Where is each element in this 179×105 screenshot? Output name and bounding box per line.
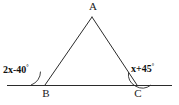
angle-label-right-exterior: x+45° xyxy=(131,63,154,74)
vertex-label-c: C xyxy=(125,88,151,99)
angle-expression-left: 2x-40 xyxy=(3,64,26,75)
angle-expression-right: x+45 xyxy=(131,63,152,74)
angle-arc-b xyxy=(31,72,41,85)
angle-label-left-exterior: 2x-40° xyxy=(3,64,29,75)
degree-symbol-left: ° xyxy=(26,64,28,70)
triangle-side-ac xyxy=(92,17,137,85)
geometry-figure: A B C 2x-40° x+45° xyxy=(0,0,179,105)
vertex-label-a: A xyxy=(80,1,106,12)
triangle-diagram-svg xyxy=(0,0,179,105)
triangle-side-ba xyxy=(45,17,92,85)
degree-symbol-right: ° xyxy=(152,63,154,69)
vertex-label-b: B xyxy=(33,88,59,99)
